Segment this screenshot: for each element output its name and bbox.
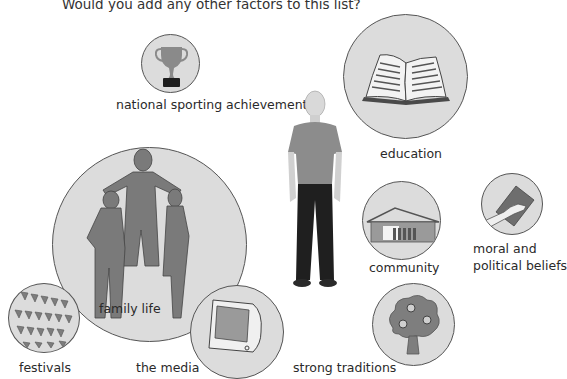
hand-on-book-icon xyxy=(482,174,543,235)
label-traditions: strong traditions xyxy=(293,360,396,375)
bunting-icon xyxy=(9,284,80,353)
factor-circle-community xyxy=(362,181,441,260)
factor-circle-moral xyxy=(481,173,543,235)
open-book-icon xyxy=(344,15,468,139)
label-community: community xyxy=(369,260,440,275)
trophy-icon xyxy=(142,35,200,93)
label-family: family life xyxy=(99,301,161,316)
prompt-question: Would you add any other factors to this … xyxy=(62,0,361,12)
label-media: the media xyxy=(136,360,199,375)
factor-circle-education xyxy=(343,14,468,139)
factor-circle-media xyxy=(190,285,284,379)
factor-circle-traditions xyxy=(372,283,455,366)
house-icon xyxy=(363,182,441,260)
label-education: education xyxy=(380,146,442,161)
label-festivals: festivals xyxy=(19,360,71,375)
label-moral-1: moral and xyxy=(473,241,537,256)
person-icon xyxy=(282,86,348,288)
label-moral-2: political beliefs xyxy=(473,258,567,273)
tree-icon xyxy=(373,284,455,366)
factor-circle-festivals xyxy=(8,283,80,353)
television-icon xyxy=(191,286,284,379)
center-person xyxy=(282,86,348,288)
factor-circle-sporting xyxy=(141,34,200,93)
